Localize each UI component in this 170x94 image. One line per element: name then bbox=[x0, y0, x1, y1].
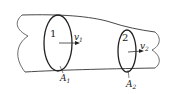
section-1-number: 1 bbox=[50, 29, 56, 39]
area-2-subscript: 2 bbox=[133, 83, 137, 90]
area-1-label: A1 bbox=[60, 74, 70, 84]
velocity-2-label: v2 bbox=[140, 42, 149, 52]
pipe-bottom-edge bbox=[25, 68, 155, 72]
velocity-2-subscript: 2 bbox=[145, 45, 149, 52]
velocity-1-subscript: 1 bbox=[79, 36, 83, 43]
pipe-left-end bbox=[17, 15, 28, 72]
velocity-1-label: v1 bbox=[74, 33, 83, 43]
pipe-top-edge bbox=[22, 15, 155, 32]
pipe-right-end bbox=[152, 32, 159, 68]
area-1-subscript: 1 bbox=[67, 77, 71, 84]
section-2-number: 2 bbox=[122, 33, 128, 43]
area-2-label: A2 bbox=[126, 80, 136, 90]
